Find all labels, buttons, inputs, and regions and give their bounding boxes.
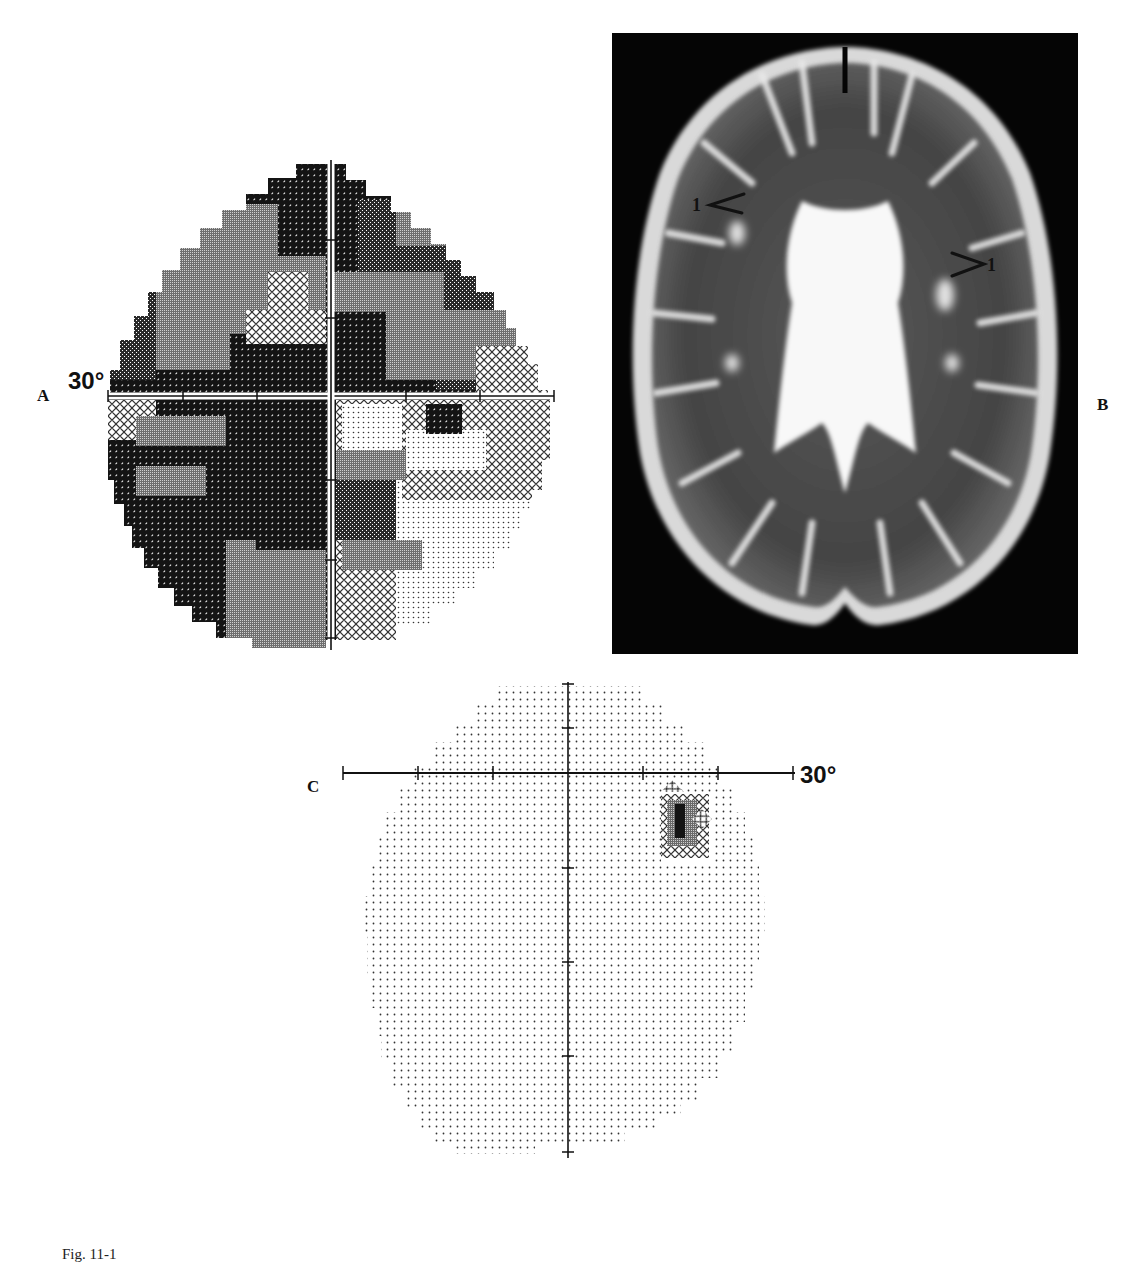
panel-b-label: B bbox=[1097, 395, 1108, 415]
figure-caption: Fig. 11-1 bbox=[62, 1246, 116, 1263]
lesion-marker-left: 1 bbox=[692, 195, 701, 215]
panel-b-mri-image: 1 1 bbox=[612, 33, 1078, 654]
panel-a-visual-field bbox=[96, 160, 566, 650]
panel-c-label: C bbox=[307, 777, 319, 797]
panel-c-visual-field bbox=[335, 682, 805, 1162]
panel-a-label: A bbox=[37, 386, 49, 406]
panel-c-30-degree-label: 30° bbox=[800, 761, 836, 789]
lesion-marker-right: 1 bbox=[987, 255, 996, 275]
scotoma-region bbox=[661, 780, 713, 862]
